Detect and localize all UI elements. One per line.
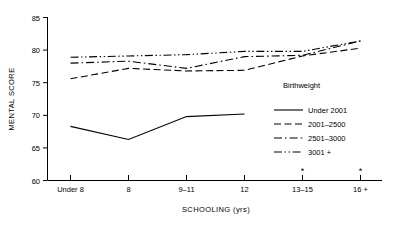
y-tick-label-65: 65: [32, 144, 40, 153]
legend-label-2501-3000: 2501–3000: [308, 134, 346, 143]
x-tick-label-8: 8: [126, 185, 130, 194]
x-tick-label-12: 12: [240, 185, 248, 194]
y-axis-title: MENTAL SCORE: [7, 67, 16, 130]
y-tick-label-85: 85: [32, 14, 40, 23]
asterisk-annotation-13-15: *: [301, 166, 305, 176]
y-tick-label-80: 80: [32, 46, 40, 55]
x-axis-title: SCHOOLING (yrs): [182, 205, 250, 214]
y-tick-label-75: 75: [32, 79, 40, 88]
y-tick-label-60: 60: [32, 177, 40, 186]
x-tick-label-9-11: 9–11: [178, 185, 194, 194]
legend-label-3001-plus: 3001 +: [308, 148, 332, 157]
asterisk-annotation-16-plus: *: [359, 166, 363, 176]
y-tick-label-70: 70: [32, 111, 40, 120]
line-chart-svg: 85 80 75 70 65 60 Under 8 8 9–11 12 13–1…: [0, 0, 393, 226]
x-tick-label-13-15: 13–15: [292, 185, 313, 194]
legend-label-under-2001: Under 2001: [308, 106, 347, 115]
legend-title: Birthweight: [283, 81, 321, 90]
legend-label-2001-2500: 2001–2500: [308, 120, 346, 129]
chart-figure: 85 80 75 70 65 60 Under 8 8 9–11 12 13–1…: [0, 0, 393, 226]
x-tick-label-16-plus: 16 +: [353, 185, 368, 194]
x-tick-label-under-8: Under 8: [57, 185, 84, 194]
